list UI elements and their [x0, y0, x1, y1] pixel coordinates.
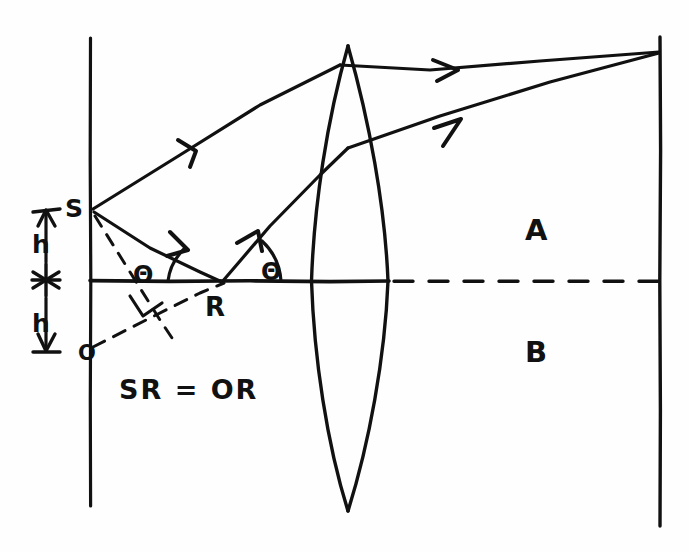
label-height-upper: h: [32, 230, 50, 259]
asterisk-mark-on-axis: [32, 264, 60, 296]
label-source-point: S: [65, 194, 83, 223]
ray-source-to-reflection: [94, 212, 222, 282]
label-angle-incidence: Θ: [133, 261, 153, 289]
label-object-point: O: [78, 341, 96, 365]
label-region-a: A: [525, 213, 548, 247]
arrowhead-ray-lower-exit: [434, 119, 461, 146]
label-region-b: B: [525, 335, 547, 369]
lens-left-surface: [312, 46, 349, 511]
arrowhead-ray-source-to-reflection: [167, 232, 188, 256]
ray-upper-from-source: [93, 65, 340, 209]
label-reflection-point: R: [205, 292, 225, 322]
optics-diagram-svg: S O R Θ Θ h h A B SR = OR: [0, 0, 689, 552]
label-height-lower: h: [32, 309, 50, 338]
right-vertical-plane-line: [660, 37, 661, 526]
ray-reflected-from-R: [222, 148, 348, 282]
label-relation-note: SR = OR: [119, 374, 258, 405]
lens-right-surface: [348, 46, 388, 511]
label-angle-reflection: Θ: [261, 258, 281, 286]
optics-diagram-canvas: S O R Θ Θ h h A B SR = OR: [0, 0, 689, 552]
left-vertical-plane-line: [90, 38, 91, 506]
